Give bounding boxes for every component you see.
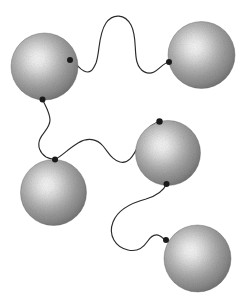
- node-dot-s1-right[interactable]: [67, 57, 73, 63]
- node-dot-s2-left[interactable]: [166, 59, 172, 65]
- node-dot-s5-left[interactable]: [163, 237, 169, 243]
- node-dot-s4-bottom[interactable]: [164, 181, 170, 187]
- sphere-top-right[interactable]: [168, 22, 235, 89]
- node-dot-s3-top[interactable]: [52, 157, 58, 163]
- sphere-bottom-left[interactable]: [21, 160, 87, 226]
- figure-canvas: Five shaded spheres connected by wavy cu…: [0, 0, 239, 304]
- sphere-middle-right[interactable]: [136, 121, 201, 186]
- sphere-bottom-right[interactable]: [164, 225, 231, 292]
- node-dot-s1-bottom[interactable]: [40, 97, 46, 103]
- spheres-diagram: [0, 0, 239, 304]
- sphere-top-left[interactable]: [11, 33, 78, 100]
- node-dot-s4-top[interactable]: [156, 118, 162, 124]
